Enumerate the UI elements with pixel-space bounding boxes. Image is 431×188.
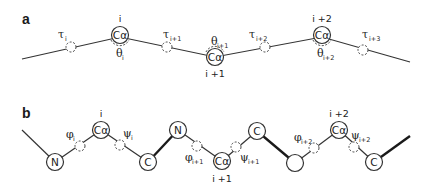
svg-text:i+1: i+1 — [217, 42, 228, 50]
svg-text:i: i — [73, 135, 75, 143]
svg-text:Cα: Cα — [94, 124, 108, 136]
svg-text:i+2: i+2 — [323, 54, 334, 62]
svg-text:C: C — [253, 125, 260, 137]
svg-text:Cα: Cα — [113, 29, 127, 41]
residue-index: i +1 — [212, 173, 232, 184]
torsion-label-phi-i2: φ i+2 — [294, 131, 312, 146]
torsion-label-tau-i2: τ i+2 — [249, 28, 267, 43]
svg-text:Cα: Cα — [208, 51, 222, 63]
calpha-node-i1: Cα i +1 θ i+1 — [205, 35, 228, 79]
panel-b: b φ i ψ i φ i+1 ψ i — [22, 105, 410, 184]
torsion-label-psi-i1: ψ i+1 — [240, 151, 259, 166]
atom-n-unlabeled — [287, 155, 304, 172]
torsion-marker-tau-i3 — [358, 45, 368, 55]
torsion-marker-tau-i — [66, 42, 76, 52]
torsion-label-phi-i1: φ i+1 — [185, 151, 203, 166]
torsion-label-tau-i: τ i — [58, 28, 67, 43]
atom-calpha-i1: Cα i +1 — [212, 153, 232, 185]
torsion-marker-phi-i1 — [192, 141, 202, 151]
svg-text:i+3: i+3 — [369, 35, 380, 43]
torsion-label-psi-i2: ψ i+2 — [351, 129, 370, 144]
calpha-node-i2: Cα i +2 θ i+2 — [312, 13, 334, 62]
residue-index: i — [100, 108, 103, 119]
torsion-marker-psi-i2 — [349, 142, 359, 152]
residue-index: i +2 — [312, 13, 332, 24]
svg-text:Cα: Cα — [332, 124, 346, 136]
svg-text:i+1: i+1 — [170, 35, 181, 43]
svg-text:Cα: Cα — [215, 155, 229, 167]
torsion-marker-phi-i — [75, 141, 85, 151]
torsion-marker-psi-i — [115, 140, 125, 150]
residue-index: i +2 — [329, 108, 349, 119]
atom-c: C — [366, 154, 383, 171]
atom-n: N — [47, 154, 64, 171]
svg-text:N: N — [51, 156, 59, 168]
residue-index: i +1 — [205, 68, 225, 79]
atom-c: C — [249, 123, 266, 140]
svg-text:τ: τ — [249, 28, 255, 41]
torsion-label-tau-i1: τ i+1 — [163, 28, 181, 43]
torsion-label-psi-i: ψ i — [123, 127, 133, 142]
svg-text:i: i — [65, 35, 67, 43]
svg-text:i+1: i+1 — [248, 158, 259, 166]
atom-c: C — [140, 154, 157, 171]
atom-calpha-i: Cα i — [93, 108, 110, 139]
svg-text:τ: τ — [163, 28, 169, 41]
svg-text:i+1: i+1 — [192, 158, 203, 166]
svg-text:i+2: i+2 — [359, 136, 370, 144]
svg-text:i: i — [131, 134, 133, 142]
torsion-label-phi-i: φ i — [66, 128, 75, 143]
svg-text:C: C — [144, 156, 151, 168]
panel-b-label: b — [22, 105, 31, 121]
svg-text:C: C — [370, 156, 377, 168]
torsion-marker-tau-i1 — [162, 42, 172, 52]
residue-index: i — [119, 13, 122, 24]
svg-text:Cα: Cα — [315, 29, 329, 41]
svg-text:i+2: i+2 — [256, 35, 267, 43]
calpha-node-i: Cα i θ i — [111, 13, 129, 62]
svg-text:N: N — [174, 124, 182, 136]
backbone-diagram: a τ i τ i+1 τ i+2 τ i+3 Cα i — [0, 0, 431, 188]
svg-text:τ: τ — [58, 28, 64, 41]
atom-n: N — [170, 122, 187, 139]
torsion-label-tau-i3: τ i+3 — [362, 28, 380, 43]
svg-text:i+2: i+2 — [301, 138, 312, 146]
torsion-marker-tau-i2 — [260, 42, 270, 52]
svg-text:i: i — [122, 54, 124, 62]
panel-a: a τ i τ i+1 τ i+2 τ i+3 Cα i — [22, 11, 410, 79]
panel-a-label: a — [22, 11, 30, 27]
atom-calpha-i2: Cα i +2 — [329, 108, 349, 139]
svg-text:τ: τ — [362, 28, 368, 41]
